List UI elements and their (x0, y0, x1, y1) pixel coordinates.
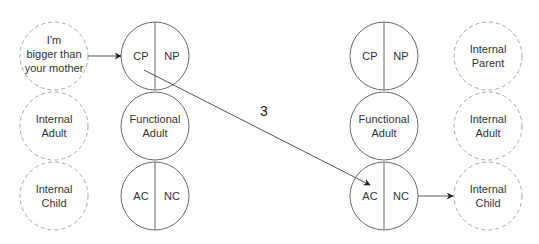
svg-text:Internal: Internal (36, 183, 73, 195)
svg-text:NC: NC (164, 190, 180, 202)
left-internal-child-line1: Internal (36, 183, 73, 195)
right-internal-child-circle (454, 162, 522, 230)
svg-text:CP: CP (133, 50, 148, 62)
svg-text:bigger than: bigger than (26, 48, 81, 60)
left-internal-adult-line1: Internal (36, 113, 73, 125)
left-adult-circle (121, 92, 189, 160)
arrow-transaction-cp-to-ac (144, 70, 370, 185)
right-internal-adult-line2: Adult (475, 127, 500, 139)
right-cp-label: CP (362, 50, 377, 62)
right-internal-adult-circle (454, 92, 522, 160)
svg-text:Child: Child (41, 197, 66, 209)
left-functional-column: CP NP Functional Adult AC NC (121, 22, 189, 230)
svg-text:NC: NC (393, 190, 409, 202)
svg-text:Adult: Adult (41, 127, 66, 139)
svg-text:your mother: your mother (25, 62, 84, 74)
svg-text:NP: NP (393, 50, 408, 62)
svg-text:Adult: Adult (475, 127, 500, 139)
right-functional-column: CP NP Functional Adult AC NC (350, 22, 418, 230)
svg-text:NP: NP (164, 50, 179, 62)
left-internal-child-circle (20, 162, 88, 230)
right-internal-adult-line1: Internal (470, 113, 507, 125)
transaction-number-label: 3 (260, 103, 268, 119)
right-ac-label: AC (362, 190, 377, 202)
svg-text:3: 3 (260, 103, 268, 119)
svg-text:Internal: Internal (36, 113, 73, 125)
left-adult-line1: Functional (130, 113, 181, 125)
svg-text:AC: AC (362, 190, 377, 202)
right-adult-line2: Adult (371, 127, 396, 139)
left-internal-parent-line2: bigger than (26, 48, 81, 60)
right-internal-column: Internal Parent Internal Adult Internal … (454, 22, 522, 230)
svg-text:Internal: Internal (470, 113, 507, 125)
arrows (88, 56, 453, 196)
ego-state-diagram: I'm bigger than your mother Internal Adu… (0, 0, 539, 244)
svg-text:Adult: Adult (142, 127, 167, 139)
svg-text:AC: AC (133, 190, 148, 202)
left-nc-label: NC (164, 190, 180, 202)
left-adult-line2: Adult (142, 127, 167, 139)
left-internal-adult-circle (20, 92, 88, 160)
svg-text:Internal: Internal (470, 43, 507, 55)
right-nc-label: NC (393, 190, 409, 202)
right-internal-child-line2: Child (475, 197, 500, 209)
svg-text:Adult: Adult (371, 127, 396, 139)
svg-text:Internal: Internal (470, 183, 507, 195)
svg-text:Child: Child (475, 197, 500, 209)
svg-text:Functional: Functional (130, 113, 181, 125)
left-internal-column: I'm bigger than your mother Internal Adu… (20, 22, 88, 230)
left-internal-child-line2: Child (41, 197, 66, 209)
right-adult-circle (350, 92, 418, 160)
left-internal-adult-line2: Adult (41, 127, 66, 139)
svg-text:CP: CP (362, 50, 377, 62)
left-internal-parent-line3: your mother (25, 62, 84, 74)
svg-text:I'm: I'm (47, 34, 61, 46)
svg-text:Functional: Functional (359, 113, 410, 125)
left-cp-label: CP (133, 50, 148, 62)
svg-text:Parent: Parent (472, 57, 504, 69)
left-ac-label: AC (133, 190, 148, 202)
left-internal-parent-line1: I'm (47, 34, 61, 46)
right-internal-parent-line2: Parent (472, 57, 504, 69)
left-np-label: NP (164, 50, 179, 62)
right-internal-parent-circle (454, 22, 522, 90)
right-np-label: NP (393, 50, 408, 62)
right-adult-line1: Functional (359, 113, 410, 125)
right-internal-child-line1: Internal (470, 183, 507, 195)
right-internal-parent-line1: Internal (470, 43, 507, 55)
